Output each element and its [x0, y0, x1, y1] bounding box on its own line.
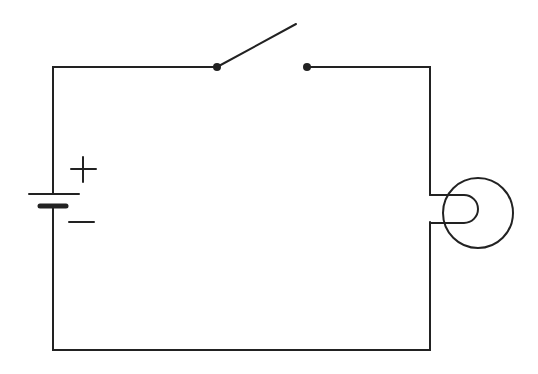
switch-contact-left	[213, 63, 221, 71]
wire-right-top	[307, 67, 430, 195]
wire-bottom	[53, 206, 430, 350]
bulb-filament	[430, 195, 478, 223]
wire-left-top	[53, 67, 217, 194]
circuit-diagram	[0, 0, 538, 374]
switch-lever	[217, 24, 296, 67]
switch-contact-right	[303, 63, 311, 71]
